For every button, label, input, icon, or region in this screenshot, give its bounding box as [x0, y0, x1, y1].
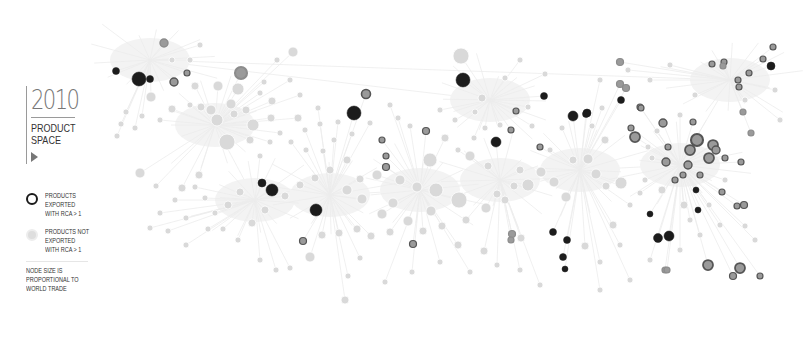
exported-product-node[interactable] [310, 204, 322, 216]
product-node[interactable] [407, 123, 413, 129]
exported-product-node[interactable] [736, 84, 742, 90]
product-node[interactable] [627, 202, 633, 208]
product-node[interactable] [277, 130, 283, 136]
exported-product-node[interactable] [735, 263, 745, 273]
product-node[interactable] [382, 279, 388, 285]
product-node[interactable] [645, 144, 651, 150]
exported-product-node[interactable] [258, 179, 266, 187]
product-node[interactable] [305, 252, 315, 262]
product-node[interactable] [478, 94, 486, 102]
exported-product-node[interactable] [638, 105, 644, 111]
product-node[interactable] [467, 269, 473, 275]
product-node[interactable] [335, 119, 341, 125]
product-node[interactable] [326, 166, 334, 174]
product-node[interactable] [502, 75, 508, 81]
product-node[interactable] [465, 151, 475, 161]
product-node[interactable] [236, 188, 244, 196]
product-node[interactable] [274, 57, 280, 63]
product-node[interactable] [297, 92, 303, 98]
product-node[interactable] [367, 120, 373, 126]
product-node[interactable] [123, 109, 129, 115]
product-node[interactable] [357, 194, 367, 204]
product-node[interactable] [517, 234, 525, 242]
exported-product-node[interactable] [746, 70, 752, 76]
product-node[interactable] [294, 114, 302, 122]
product-node[interactable] [517, 267, 523, 273]
product-node[interactable] [517, 57, 523, 63]
product-node[interactable] [187, 102, 193, 108]
exported-product-node[interactable] [147, 76, 154, 83]
product-node[interactable] [429, 183, 443, 197]
exported-product-node[interactable] [704, 153, 714, 163]
exported-product-node[interactable] [740, 109, 746, 115]
exported-product-node[interactable] [722, 155, 728, 161]
exported-product-node[interactable] [672, 177, 678, 183]
exported-product-node[interactable] [383, 153, 389, 159]
product-node[interactable] [202, 195, 208, 201]
exported-product-node[interactable] [379, 137, 385, 143]
product-node[interactable] [213, 81, 223, 91]
product-node[interactable] [211, 114, 223, 126]
product-node[interactable] [426, 206, 436, 216]
product-node[interactable] [597, 259, 603, 265]
exported-product-node[interactable] [550, 229, 557, 236]
product-node[interactable] [658, 186, 666, 194]
product-node[interactable] [395, 115, 401, 121]
product-node[interactable] [453, 48, 469, 64]
exported-product-node[interactable] [564, 237, 571, 244]
product-node[interactable] [317, 121, 323, 127]
exported-product-node[interactable] [654, 234, 663, 243]
product-node[interactable] [377, 209, 387, 219]
product-node[interactable] [497, 122, 503, 128]
product-node[interactable] [615, 177, 627, 189]
product-node[interactable] [287, 265, 293, 271]
exported-product-node[interactable] [300, 238, 307, 245]
product-node[interactable] [522, 179, 534, 191]
product-node[interactable] [197, 42, 203, 48]
product-node[interactable] [752, 237, 758, 243]
product-node[interactable] [625, 67, 631, 73]
product-node[interactable] [183, 242, 189, 248]
exported-product-node[interactable] [508, 237, 514, 243]
product-node[interactable] [296, 181, 304, 189]
product-node[interactable] [353, 225, 361, 233]
product-node[interactable] [367, 232, 375, 240]
product-node[interactable] [717, 222, 723, 228]
product-node[interactable] [742, 223, 748, 229]
product-node[interactable] [331, 137, 337, 143]
exported-product-node[interactable] [767, 62, 775, 70]
product-node[interactable] [412, 182, 422, 192]
product-node[interactable] [273, 267, 279, 273]
exported-product-node[interactable] [665, 144, 671, 150]
exported-product-node[interactable] [509, 231, 516, 238]
product-node[interactable] [617, 242, 623, 248]
product-node[interactable] [589, 123, 595, 129]
product-node[interactable] [647, 257, 653, 263]
product-node[interactable] [581, 242, 589, 250]
exported-product-node[interactable] [560, 254, 567, 261]
exported-product-node[interactable] [691, 134, 703, 146]
product-node[interactable] [687, 217, 693, 223]
exported-product-node[interactable] [347, 106, 361, 120]
product-node[interactable] [303, 147, 309, 153]
exported-product-node[interactable] [738, 159, 744, 165]
product-node[interactable] [242, 106, 250, 114]
product-node[interactable] [224, 201, 232, 209]
exported-product-node[interactable] [184, 70, 190, 76]
product-node[interactable] [480, 247, 488, 255]
product-node[interactable] [597, 77, 603, 83]
product-node[interactable] [692, 92, 698, 98]
product-node[interactable] [583, 154, 593, 164]
product-node[interactable] [601, 136, 609, 144]
product-node[interactable] [481, 203, 491, 213]
exported-product-node[interactable] [568, 111, 578, 121]
product-node[interactable] [206, 105, 216, 115]
product-node[interactable] [349, 131, 355, 137]
product-node[interactable] [403, 216, 413, 226]
product-node[interactable] [409, 269, 415, 275]
product-node[interactable] [335, 229, 343, 237]
product-node[interactable] [287, 77, 293, 83]
product-node[interactable] [357, 255, 363, 261]
product-node[interactable] [146, 92, 156, 102]
product-node[interactable] [419, 227, 427, 235]
